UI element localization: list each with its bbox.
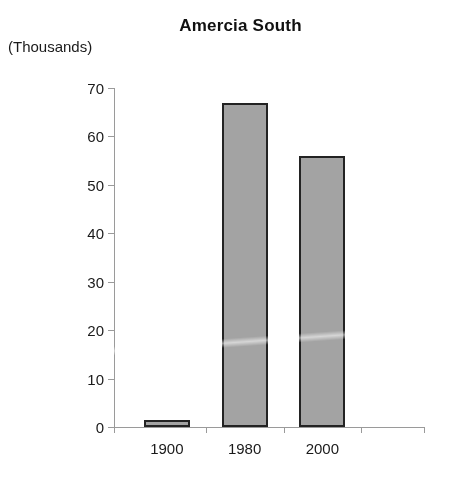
y-tick-mark xyxy=(108,282,115,283)
y-tick-mark xyxy=(108,185,115,186)
plot-area: 010203040506070 190019802000 xyxy=(114,88,425,427)
y-axis-units-label: (Thousands) xyxy=(8,38,92,55)
y-tick-label: 60 xyxy=(87,128,104,145)
x-tick-mark xyxy=(114,427,115,433)
y-tick-mark xyxy=(108,233,115,234)
chart-title: Amercia South xyxy=(0,16,455,36)
y-tick-mark xyxy=(108,330,115,331)
y-tick-label: 10 xyxy=(87,370,104,387)
y-tick-label: 20 xyxy=(87,322,104,339)
y-tick-label: 0 xyxy=(96,419,104,436)
y-tick-label: 40 xyxy=(87,225,104,242)
y-tick-label: 70 xyxy=(87,80,104,97)
bar-2000 xyxy=(299,156,345,427)
x-tick-mark xyxy=(361,427,362,433)
bar-1900 xyxy=(144,420,190,427)
bar-chart: Amercia South (Thousands) 01020304050607… xyxy=(0,0,455,482)
bar-1980 xyxy=(222,103,268,427)
y-axis-line xyxy=(114,88,115,427)
y-tick-mark xyxy=(108,379,115,380)
x-label-2000: 2000 xyxy=(306,440,339,457)
y-tick-label: 30 xyxy=(87,273,104,290)
x-axis-line xyxy=(114,427,425,428)
x-tick-mark xyxy=(284,427,285,433)
y-tick-mark xyxy=(108,136,115,137)
y-tick-mark xyxy=(108,88,115,89)
chart-title-text: Amercia South xyxy=(179,16,302,36)
x-tick-mark xyxy=(206,427,207,433)
x-label-1980: 1980 xyxy=(228,440,261,457)
x-tick-mark-end xyxy=(424,427,425,433)
x-label-1900: 1900 xyxy=(150,440,183,457)
y-tick-label: 50 xyxy=(87,176,104,193)
